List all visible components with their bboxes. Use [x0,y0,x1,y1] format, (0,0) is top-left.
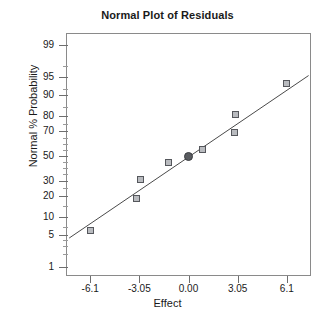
x-tick-mark [238,276,239,283]
normal-probability-plot-figure: Normal Plot of Residuals Normal % Probab… [0,0,335,323]
x-tick-mark [139,276,140,283]
data-point [133,195,140,202]
y-tick-label: 5 [14,230,54,240]
x-axis-title: Effect [0,297,335,309]
data-point [165,159,172,166]
highlighted-data-point [184,152,193,161]
y-tick-label: 95 [14,72,54,82]
x-tick-mark [287,276,288,283]
x-tick-mark [90,276,91,283]
y-tick-label: 20 [14,191,54,201]
y-tick-label: 99 [14,40,54,50]
y-tick-label: 80 [14,111,54,121]
x-tick-label: 6.1 [257,284,317,294]
y-tick-label: 50 [14,151,54,161]
data-point [199,146,206,153]
plot-area [66,33,311,276]
y-tick-label: 1 [14,262,54,272]
chart-title: Normal Plot of Residuals [0,9,335,21]
y-tick-label: 10 [14,212,54,222]
y-tick-label: 90 [14,90,54,100]
data-point [232,111,239,118]
data-point [231,129,238,136]
data-point [87,227,94,234]
y-tick-label: 30 [14,176,54,186]
data-point [137,176,144,183]
y-tick-label: 70 [14,126,54,136]
data-point [283,80,290,87]
x-tick-mark [189,276,190,283]
